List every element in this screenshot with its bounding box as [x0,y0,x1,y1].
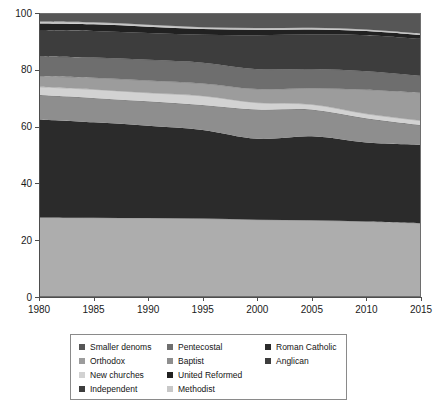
legend-item-independent[interactable]: Independent [79,384,167,394]
x-tick-label: 2000 [246,304,269,315]
y-tick-label: 0 [26,292,32,303]
legend-item-label: Smaller denoms [90,342,151,352]
legend-swatch-icon [79,372,85,378]
legend-item-label: Anglican [276,356,309,366]
x-tick-label: 1985 [82,304,105,315]
y-tick-label: 100 [15,8,32,19]
legend-item-orthodox[interactable]: Orthodox [79,356,167,366]
legend-item-new-churches[interactable]: New churches [79,370,167,380]
legend-swatch-icon [167,386,173,392]
legend-item-smaller-denoms[interactable]: Smaller denoms [79,342,167,352]
chart-screenshot: 0204060801001980198519901995200020052010… [0,0,446,411]
legend-swatch-icon [265,358,271,364]
x-tick-label: 1980 [28,304,51,315]
legend-swatch-icon [265,344,271,350]
legend-swatch-icon [167,344,173,350]
x-tick-label: 2010 [355,304,378,315]
x-tick-label: 1995 [192,304,215,315]
legend-item-label: Orthodox [90,356,125,366]
legend-item-roman-catholic[interactable]: Roman Catholic [265,342,340,352]
y-tick-label: 40 [21,178,33,189]
legend-item-label: Roman Catholic [276,342,336,352]
legend-swatch-icon [167,372,173,378]
x-tick-label: 1990 [137,304,160,315]
legend-item-label: Pentecostal [178,342,222,352]
chart-legend: Smaller denomsPentecostalRoman CatholicO… [70,334,347,400]
y-tick-label: 60 [21,121,33,132]
chart-svg: 0204060801001980198519901995200020052010… [0,0,446,330]
legend-item-united-reformed[interactable]: United Reformed [167,370,265,380]
legend-item-label: New churches [90,370,144,380]
area-series-anglican [39,217,421,297]
y-tick-label: 80 [21,64,33,75]
legend-swatch-icon [79,386,85,392]
legend-item-baptist[interactable]: Baptist [167,356,265,366]
legend-swatch-icon [79,344,85,350]
stacked-area-chart: 0204060801001980198519901995200020052010… [0,0,446,330]
x-tick-label: 2005 [301,304,324,315]
legend-item-label: Baptist [178,356,204,366]
legend-item-label: Independent [90,384,137,394]
legend-swatch-icon [167,358,173,364]
y-tick-label: 20 [21,235,33,246]
x-tick-label: 2015 [410,304,433,315]
legend-item-pentecostal[interactable]: Pentecostal [167,342,265,352]
legend-grid: Smaller denomsPentecostalRoman CatholicO… [79,340,340,396]
legend-swatch-icon [79,358,85,364]
legend-item-label: United Reformed [178,370,242,380]
legend-item-label: Methodist [178,384,215,394]
legend-item-methodist[interactable]: Methodist [167,384,265,394]
legend-item-anglican[interactable]: Anglican [265,356,340,366]
